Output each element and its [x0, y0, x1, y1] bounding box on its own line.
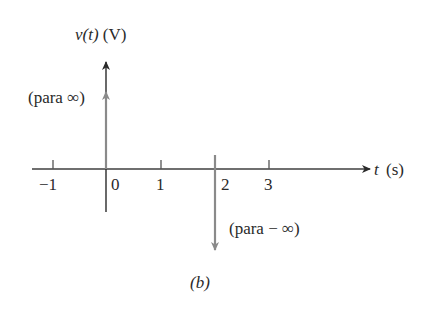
impulse-up-label: (para ∞) — [28, 89, 85, 106]
figure-caption: (b) — [190, 274, 210, 291]
x-axis-unit: (s) — [386, 160, 404, 179]
x-axis-var: t — [374, 160, 379, 179]
tick-label-3: 3 — [264, 176, 273, 193]
impulse-down-label: (para − ∞) — [229, 220, 300, 237]
tick-label-1: 1 — [156, 176, 165, 193]
y-axis-unit: (V) — [103, 25, 127, 44]
y-axis-label: v(t) (V) — [75, 26, 126, 43]
diagram-canvas — [0, 0, 434, 311]
y-axis-var: v(t) — [75, 25, 99, 44]
tick-label-2: 2 — [221, 176, 230, 193]
x-axis-label: t (s) — [374, 161, 404, 178]
tick-label-0: 0 — [111, 176, 120, 193]
tick-label-neg1: −1 — [39, 176, 57, 193]
